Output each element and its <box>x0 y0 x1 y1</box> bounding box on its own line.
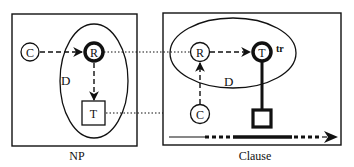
diagram-canvas: D C R T NP D R T tr <box>0 0 354 167</box>
np-domain-label: D <box>61 73 70 88</box>
clause-square-node <box>253 110 271 127</box>
clause-t-label: T <box>258 46 266 60</box>
np-c-label: C <box>26 46 34 60</box>
clause-panel: D R T tr C Clause <box>163 13 341 163</box>
clause-timeline-arrow <box>169 131 338 143</box>
clause-r-label: R <box>196 46 204 60</box>
clause-caption: Clause <box>239 149 272 163</box>
np-caption: NP <box>69 149 85 163</box>
np-panel: D C R T NP <box>12 14 137 163</box>
clause-c-label: C <box>196 108 204 122</box>
clause-trace-label: tr <box>276 43 284 54</box>
clause-domain-label: D <box>224 74 233 89</box>
np-t-label: T <box>90 107 98 121</box>
np-r-label: R <box>90 46 98 60</box>
